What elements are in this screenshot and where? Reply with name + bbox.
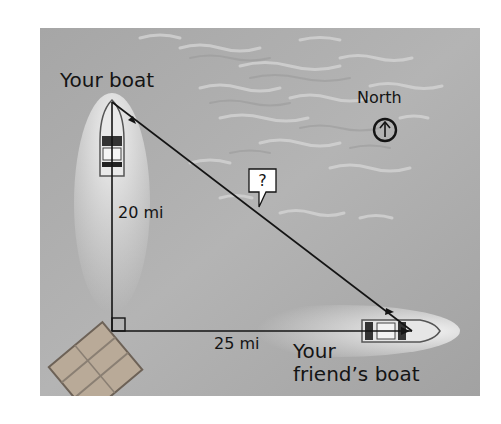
friend-boat-label: Your friend’s boat: [293, 340, 420, 386]
friend-boat-label-line2: friend’s boat: [293, 363, 420, 386]
your-boat-label: Your boat: [60, 70, 154, 90]
vertical-side-label: 20 mi: [118, 205, 163, 221]
north-arrow-circle-icon: [374, 119, 396, 141]
north-label: North: [357, 90, 402, 106]
friend-boat-label-line1: Your: [293, 340, 420, 363]
right-angle-marker: [112, 318, 125, 331]
horizontal-side-label: 25 mi: [214, 336, 259, 352]
hypotenuse-unknown-label: ?: [249, 169, 276, 192]
triangle-overlay: [0, 0, 501, 424]
